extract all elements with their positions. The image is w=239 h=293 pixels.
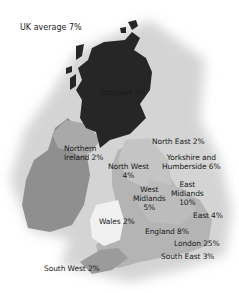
label-line: 5% (133, 203, 166, 212)
label-line: Northern (64, 144, 103, 153)
label-east-midlands: East Midlands 10% (171, 180, 204, 207)
label-yorkshire: Yorkshire and Humberside 6% (162, 153, 221, 171)
label-line: Yorkshire and (162, 153, 221, 162)
uk-average-label: UK average 7% (20, 23, 82, 32)
label-line: 10% (171, 198, 204, 207)
label-south-west: South West 2% (44, 264, 100, 273)
label-northern-ireland: Northern Ireland 2% (64, 144, 103, 162)
uk-map (0, 0, 239, 293)
label-line: East (171, 180, 204, 189)
label-line: Ireland 2% (64, 153, 103, 162)
label-south-east: South East 3% (161, 252, 214, 261)
label-london: London 25% (174, 239, 220, 248)
label-line: Midlands (133, 194, 166, 203)
label-north-east: North East 2% (152, 137, 205, 146)
label-west-midlands: West Midlands 5% (133, 185, 166, 212)
label-line: Midlands (171, 189, 204, 198)
label-line: North West (108, 162, 149, 171)
label-england: England 8% (145, 227, 189, 236)
label-east: East 4% (193, 211, 223, 220)
label-north-west: North West 4% (108, 162, 149, 180)
label-scotland: Scotland 2% (100, 88, 146, 97)
label-line: West (133, 185, 166, 194)
label-line: 4% (108, 171, 149, 180)
label-wales: Wales 2% (99, 217, 135, 226)
label-line: Humberside 6% (162, 162, 221, 171)
